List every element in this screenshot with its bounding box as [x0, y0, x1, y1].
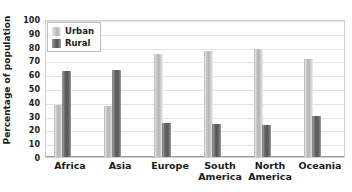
x-axis-label-line: North: [245, 160, 295, 171]
legend-label-rural: Rural: [65, 38, 90, 48]
x-axis-label-line: Europe: [145, 160, 195, 171]
legend-swatch-urban-icon: [52, 27, 61, 36]
y-axis-tick-0: 0: [34, 154, 40, 163]
x-axis-label-line: Africa: [45, 160, 95, 171]
y-axis-title: Percentage of population: [0, 0, 14, 160]
y-axis-tick-90: 90: [29, 29, 40, 38]
y-axis-tick-100: 100: [23, 16, 40, 25]
x-axis-label-oceania: Oceania: [295, 160, 345, 171]
x-axis-label-africa: Africa: [45, 160, 95, 171]
x-axis-label-line: Asia: [95, 160, 145, 171]
bar-group-north-america: [246, 21, 296, 157]
x-axis-label-line: South: [195, 160, 245, 171]
bar-group-asia: [96, 21, 146, 157]
x-axis-label-line: Oceania: [295, 160, 345, 171]
bar-rural-south-america: [212, 124, 221, 157]
x-axis-label-europe: Europe: [145, 160, 195, 171]
legend-label-urban: Urban: [65, 26, 94, 36]
x-axis-category-labels: AfricaAsiaEuropeSouthAmericaNorthAmerica…: [45, 160, 345, 192]
y-axis-tick-50: 50: [29, 85, 40, 94]
bar-rural-africa: [62, 71, 71, 157]
bar-group-oceania: [296, 21, 346, 157]
y-axis-tick-10: 10: [29, 140, 40, 149]
y-axis-title-text: Percentage of population: [2, 16, 12, 145]
bar-rural-oceania: [312, 116, 321, 157]
y-axis-tick-60: 60: [29, 71, 40, 80]
y-axis-tick-40: 40: [29, 98, 40, 107]
bar-chart: Percentage of population 010203040506070…: [0, 0, 352, 192]
x-axis-label-line: America: [195, 171, 245, 182]
bar-group-south-america: [196, 21, 246, 157]
legend-swatch-rural-icon: [52, 39, 61, 48]
legend-item-rural: Rural: [52, 38, 94, 48]
y-axis-tick-80: 80: [29, 43, 40, 52]
x-axis-label-asia: Asia: [95, 160, 145, 171]
bar-group-europe: [146, 21, 196, 157]
chart-legend: Urban Rural: [47, 22, 101, 52]
bar-rural-europe: [162, 123, 171, 158]
x-axis-label-south-america: SouthAmerica: [195, 160, 245, 182]
x-axis-label-north-america: NorthAmerica: [245, 160, 295, 182]
x-axis-label-line: America: [245, 171, 295, 182]
bar-rural-asia: [112, 70, 121, 157]
y-axis-tick-70: 70: [29, 57, 40, 66]
y-axis-tick-labels: 0102030405060708090100: [14, 14, 43, 164]
y-axis-tick-20: 20: [29, 126, 40, 135]
bar-rural-north-america: [262, 125, 271, 157]
legend-item-urban: Urban: [52, 26, 94, 36]
y-axis-tick-30: 30: [29, 112, 40, 121]
